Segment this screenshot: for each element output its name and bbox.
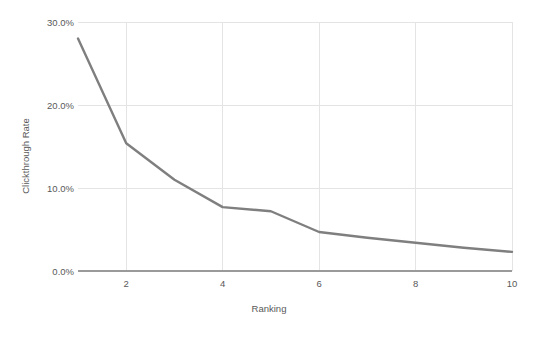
y-axis-title: Clickthrough Rate (18, 100, 32, 212)
y-tick-label: 30.0% (24, 17, 74, 28)
x-tick-label: 6 (304, 278, 334, 289)
x-axis-tick-labels: 246810 (0, 278, 538, 298)
data-series-layer (78, 39, 512, 252)
y-axis-title-text: Clickthrough Rate (20, 118, 31, 194)
axis-lines (78, 22, 512, 271)
series-line-0 (78, 39, 512, 252)
x-tick-label: 4 (208, 278, 238, 289)
y-tick-label: 0.0% (24, 266, 74, 277)
x-tick-label: 8 (401, 278, 431, 289)
x-tick-label: 10 (497, 278, 527, 289)
clickthrough-rate-line-chart: 0.0%10.0%20.0%30.0% 246810 Clickthrough … (0, 0, 538, 342)
gridlines (78, 22, 512, 271)
x-axis-title: Ranking (0, 303, 538, 314)
x-tick-label: 2 (111, 278, 141, 289)
